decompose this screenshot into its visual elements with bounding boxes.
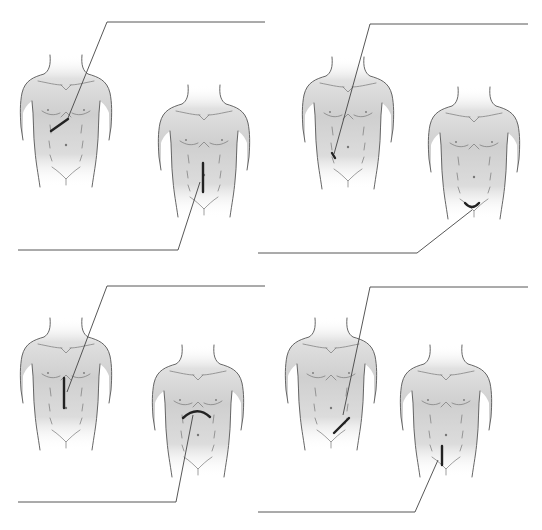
- torso-b: [158, 85, 249, 217]
- panel-4: [258, 287, 528, 512]
- panel-3: [18, 286, 265, 502]
- panel-2: [258, 24, 528, 253]
- incision-diagram: [0, 0, 542, 530]
- leader-line-b: [18, 182, 200, 250]
- torso-e: [20, 318, 111, 450]
- panel-1: [18, 22, 265, 250]
- leader-line-d: [258, 210, 472, 253]
- torso-d: [428, 87, 519, 219]
- leader-line-h: [258, 460, 438, 512]
- torso-g: [285, 318, 376, 450]
- torso-h: [400, 345, 491, 477]
- torso-c: [302, 57, 393, 189]
